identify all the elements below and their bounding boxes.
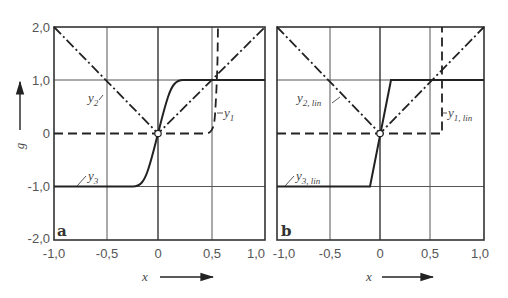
x-axis-label-b: x bbox=[365, 269, 433, 284]
panel-label-a: a bbox=[57, 222, 67, 240]
leader-y3 bbox=[77, 176, 86, 186]
panel-b: y2, lin y1, lin y3, lin b -1,0 -0,5 0 0,… bbox=[273, 27, 489, 284]
origin-marker-b bbox=[377, 130, 383, 136]
leader-y2 bbox=[99, 95, 103, 100]
svg-text:2,0: 2,0 bbox=[32, 20, 50, 35]
svg-text:-2,0: -2,0 bbox=[28, 231, 50, 246]
svg-text:0: 0 bbox=[154, 246, 161, 261]
panel-label-b: b bbox=[281, 222, 292, 240]
svg-text:g: g bbox=[12, 142, 27, 149]
svg-text:-1,0: -1,0 bbox=[273, 246, 295, 261]
svg-text:x: x bbox=[365, 269, 372, 284]
leader-y2-lin bbox=[332, 97, 340, 103]
x-axis-label-a: x bbox=[141, 269, 213, 284]
label-y2-lin: y2, lin bbox=[295, 90, 322, 108]
x-axis-ticks-a: -1,0 -0,5 0 0,5 1,0 bbox=[43, 246, 265, 261]
svg-text:1,0: 1,0 bbox=[32, 73, 50, 88]
y-axis-ticks: 2,0 1,0 0 -1,0 -2,0 bbox=[28, 20, 50, 246]
svg-text:-1,0: -1,0 bbox=[43, 246, 65, 261]
svg-text:1,0: 1,0 bbox=[471, 246, 489, 261]
label-y1: y1 bbox=[222, 105, 234, 123]
svg-text:x: x bbox=[141, 269, 148, 284]
x-axis-ticks-b: -1,0 -0,5 0 0,5 1,0 bbox=[273, 246, 489, 261]
label-y3-lin: y3, lin bbox=[294, 168, 321, 186]
svg-text:0: 0 bbox=[43, 126, 50, 141]
svg-text:-0,5: -0,5 bbox=[319, 246, 341, 261]
panel-a: y2 y1 y3 a 2,0 1,0 0 -1,0 -2,0 -1,0 -0,5… bbox=[12, 20, 265, 284]
label-y3: y3 bbox=[86, 168, 99, 186]
label-y1-lin: y1, lin bbox=[446, 105, 473, 123]
svg-text:1,0: 1,0 bbox=[247, 246, 265, 261]
svg-text:-1,0: -1,0 bbox=[28, 179, 50, 194]
origin-marker-a bbox=[155, 130, 161, 136]
svg-text:-0,5: -0,5 bbox=[96, 246, 118, 261]
y-axis-label: g bbox=[12, 82, 27, 149]
svg-text:0: 0 bbox=[376, 246, 383, 261]
figure: y2 y1 y3 a 2,0 1,0 0 -1,0 -2,0 -1,0 -0,5… bbox=[0, 0, 508, 298]
leader-y3-lin bbox=[285, 176, 294, 186]
label-y2: y2 bbox=[86, 90, 99, 108]
svg-text:0,5: 0,5 bbox=[421, 246, 439, 261]
svg-text:0,5: 0,5 bbox=[203, 246, 221, 261]
